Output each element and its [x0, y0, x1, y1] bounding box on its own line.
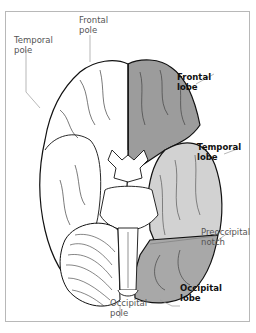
label-temporal-lobe: Temporal lobe — [197, 142, 241, 162]
label-frontal-pole: Frontal pole — [79, 15, 108, 35]
optic-chiasm — [108, 150, 148, 182]
pons — [100, 186, 158, 230]
label-frontal-lobe: Frontal lobe — [177, 72, 211, 92]
cerebellum — [60, 223, 120, 306]
temporal-pole-leader — [26, 50, 40, 108]
label-occipital-pole: Occipital pole — [110, 298, 147, 318]
label-occipital-lobe: Occipital lobe — [180, 283, 222, 303]
label-temporal-pole: Temporal pole — [14, 35, 53, 55]
label-preoccipital-notch: Preoccipital notch — [201, 227, 250, 247]
